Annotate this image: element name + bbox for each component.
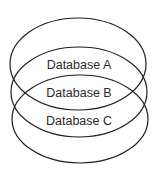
label-database-c: Database C — [46, 114, 112, 128]
label-database-b: Database B — [46, 86, 111, 100]
venn-diagram: Database A Database B Database C — [0, 0, 157, 171]
label-database-a: Database A — [47, 58, 112, 72]
